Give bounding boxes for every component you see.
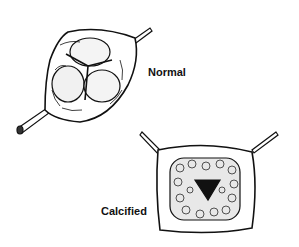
valve-illustration — [0, 0, 299, 247]
calcified-valve-drawing — [140, 132, 278, 233]
calcified-label: Calcified — [101, 205, 147, 217]
normal-valve-drawing — [17, 28, 152, 134]
normal-label: Normal — [148, 66, 186, 78]
